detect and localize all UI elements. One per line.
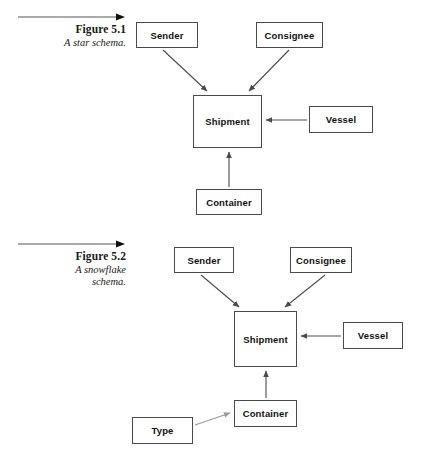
entity-box-type[interactable]: Type [132,417,193,444]
entity-label: Container [206,197,252,208]
entity-label: Shipment [205,116,249,127]
figure-description: A snowflake schema. [18,264,126,289]
entity-box-vessel[interactable]: Vessel [343,322,403,349]
figure-number: Figure 5.2 [18,250,126,264]
figure-description: A star schema. [18,37,126,49]
entity-label: Consignee [265,30,315,41]
edge-sender-shipment-1 [163,50,207,91]
edge-type-container-2 [195,413,230,425]
entity-box-container[interactable]: Container [234,400,297,427]
figure-page: Figure 5.1 A star schema. Figure 5.2 A s… [0,0,422,465]
entity-label: Shipment [243,334,287,345]
entity-label: Consignee [296,255,346,266]
edge-consignee-shipment-2 [285,275,325,307]
figure-caption-5-1: Figure 5.1 A star schema. [18,13,126,49]
entity-box-sender[interactable]: Sender [174,247,234,273]
entity-label: Sender [187,255,220,266]
figure-caption-5-2: Figure 5.2 A snowflake schema. [18,240,126,288]
right-arrow-rule-icon [18,13,126,22]
entity-label: Vessel [358,330,389,341]
entity-box-shipment[interactable]: Shipment [193,95,262,148]
right-arrow-rule-icon [18,240,126,249]
entity-label: Type [151,425,173,436]
edge-consignee-shipment-1 [249,50,289,91]
entity-box-consignee[interactable]: Consignee [256,22,323,48]
entity-box-shipment[interactable]: Shipment [234,311,297,367]
entity-box-sender[interactable]: Sender [136,22,198,48]
entity-box-consignee[interactable]: Consignee [290,247,352,273]
figure-number: Figure 5.1 [18,23,126,37]
entity-label: Sender [150,30,183,41]
connector-layer [0,0,422,465]
edge-sender-shipment-2 [201,275,239,307]
entity-label: Container [243,408,289,419]
entity-box-vessel[interactable]: Vessel [309,106,373,133]
entity-box-container[interactable]: Container [196,189,262,215]
entity-label: Vessel [326,114,357,125]
